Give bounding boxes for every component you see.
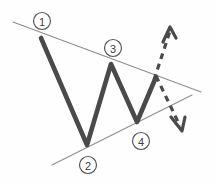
diagram-canvas: 1 2 3 4	[0, 0, 216, 184]
wave-label-3: 3	[105, 40, 122, 57]
wave-label-2-text: 2	[85, 160, 91, 172]
wave-label-4-text: 4	[138, 136, 144, 148]
wave-label-4: 4	[133, 133, 150, 150]
diagram-background	[0, 0, 216, 184]
wave-pattern-diagram: 1 2 3 4	[0, 0, 216, 184]
wave-label-1: 1	[34, 13, 51, 30]
wave-label-1-text: 1	[39, 16, 45, 28]
wave-label-2: 2	[80, 157, 97, 174]
wave-label-3-text: 3	[110, 43, 116, 55]
